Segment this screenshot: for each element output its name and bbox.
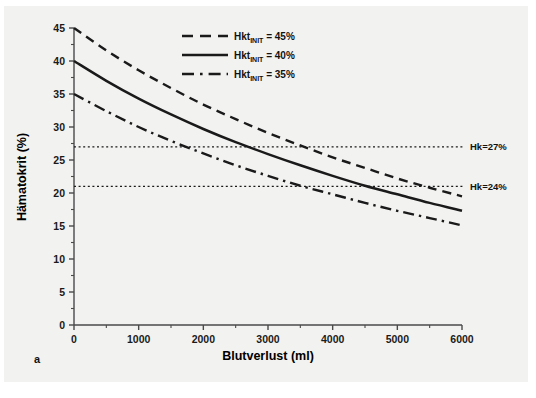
y-tick-label: 20 [53, 187, 65, 199]
y-tick-label: 10 [53, 253, 65, 265]
legend-label-40: HktINIT = 40% [234, 50, 295, 63]
reference-line-labels: Hk=27%Hk=24% [470, 141, 507, 192]
y-tick-label: 5 [59, 286, 65, 298]
x-tick-label: 2000 [192, 333, 216, 345]
chart-legend: HktINIT = 45%HktINIT = 40%HktINIT = 35% [182, 31, 295, 82]
y-tick-label: 25 [53, 154, 65, 166]
legend-label-subscript: INIT [250, 75, 264, 82]
series-line-40 [74, 61, 462, 211]
y-tick-label: 0 [59, 319, 65, 331]
x-axis-major-ticks [74, 325, 462, 330]
y-axis-tick-labels: 051015202530354045 [53, 22, 65, 331]
y-axis-title: Hämatokrit (%) [15, 133, 29, 221]
x-tick-label: 1000 [127, 333, 151, 345]
y-tick-label: 30 [53, 121, 65, 133]
x-tick-label: 6000 [450, 333, 474, 345]
legend-label-main: Hkt [234, 50, 251, 61]
x-tick-label: 4000 [321, 333, 345, 345]
y-tick-label: 35 [53, 88, 65, 100]
x-axis-title: Blutverlust (ml) [222, 349, 314, 363]
y-tick-label: 40 [53, 55, 65, 67]
figure-panel: 051015202530354045 010002000300040005000… [0, 0, 536, 398]
legend-label-subscript: INIT [250, 56, 264, 63]
legend-label-value: = 35% [263, 69, 295, 80]
x-tick-label: 5000 [386, 333, 410, 345]
x-tick-label: 3000 [256, 333, 280, 345]
legend-label-45: HktINIT = 45% [234, 31, 295, 44]
y-tick-label: 15 [53, 220, 65, 232]
reference-line-label: Hk=24% [470, 181, 507, 192]
hematocrit-blood-loss-chart: 051015202530354045 010002000300040005000… [0, 0, 536, 398]
legend-label-main: Hkt [234, 69, 251, 80]
panel-letter-label: a [34, 353, 41, 365]
series-line-35 [74, 94, 462, 225]
x-axis-tick-labels: 0100020003000400050006000 [71, 333, 474, 345]
legend-label-main: Hkt [234, 31, 251, 42]
legend-label-value: = 40% [263, 50, 295, 61]
legend-label-value: = 45% [263, 31, 295, 42]
y-tick-label: 45 [53, 22, 65, 34]
x-tick-label: 0 [71, 333, 77, 345]
reference-line-label: Hk=27% [470, 141, 507, 152]
legend-label-subscript: INIT [250, 37, 264, 44]
legend-label-35: HktINIT = 35% [234, 69, 295, 82]
